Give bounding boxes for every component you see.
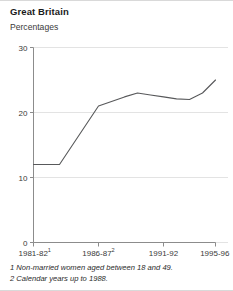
data-series-line bbox=[34, 80, 216, 165]
y-axis bbox=[30, 48, 34, 243]
x-axis bbox=[34, 243, 216, 247]
y-tick-label-30: 30 bbox=[19, 44, 28, 53]
footnote-1: 1 Non-married women aged between 18 and … bbox=[10, 262, 230, 273]
y-tick-label-0: 0 bbox=[23, 239, 28, 248]
footnote-2: 2 Calendar years up to 1988. bbox=[10, 273, 230, 284]
y-tick-label-20: 20 bbox=[19, 109, 28, 118]
x-tick-label-2: 1991-92 bbox=[149, 249, 179, 258]
footnotes: 1 Non-married women aged between 18 and … bbox=[10, 262, 230, 284]
x-tick-label-3: 1995-96 bbox=[200, 249, 230, 258]
x-tick-label-0: 1981-821 bbox=[19, 247, 51, 257]
line-chart: 0102030 1981-8211986-8721991-921995-96 bbox=[0, 0, 233, 291]
series-percentages-path bbox=[34, 80, 216, 165]
gridlines bbox=[34, 48, 229, 243]
x-tick-labels: 1981-8211986-8721991-921995-96 bbox=[19, 247, 231, 257]
y-tick-label-10: 10 bbox=[19, 174, 28, 183]
x-tick-label-1: 1986-872 bbox=[82, 247, 114, 257]
y-tick-labels: 0102030 bbox=[19, 44, 28, 248]
chart-page: Great Britain Percentages 0102030 1981-8… bbox=[0, 0, 233, 291]
